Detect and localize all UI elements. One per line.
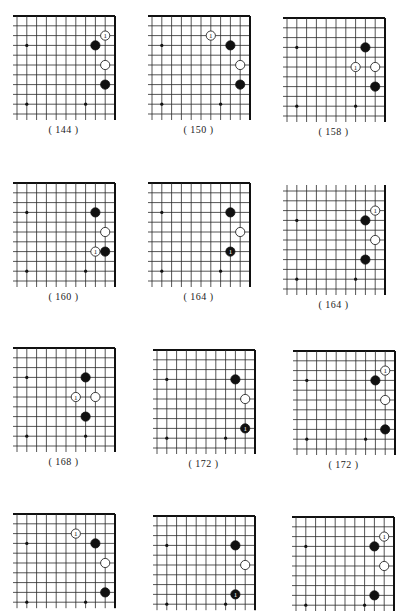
white-stone-move-1: 1 xyxy=(91,247,100,256)
black-stone xyxy=(361,255,370,264)
move-number: 1 xyxy=(94,248,98,256)
go-board-diagram-11: 1 xyxy=(150,516,257,610)
go-board-diagram-2: 1 ( 150 ) xyxy=(145,16,252,120)
star-point xyxy=(304,545,307,548)
go-board-diagram-4: 1 ( 160 ) xyxy=(10,183,117,287)
white-stone xyxy=(236,227,245,236)
star-point xyxy=(165,437,168,440)
white-stone xyxy=(101,60,110,69)
star-point xyxy=(25,211,28,214)
go-board: 1 xyxy=(10,16,117,120)
go-board-diagram-6: 1 ( 164 ) xyxy=(280,185,387,295)
go-board-diagram-3: 1 ( 158 ) xyxy=(280,18,387,122)
star-point xyxy=(25,435,28,438)
black-stone xyxy=(101,588,110,597)
star-point xyxy=(25,542,28,545)
star-point xyxy=(25,44,28,47)
black-stone xyxy=(101,80,110,89)
black-stone xyxy=(231,375,240,384)
white-stone xyxy=(241,560,250,569)
diagram-caption: ( 168 ) xyxy=(10,456,117,467)
go-board-diagram-5: 1 ( 164 ) xyxy=(145,183,252,287)
black-stone-move-1: 1 xyxy=(241,424,250,433)
star-point xyxy=(219,103,222,106)
white-stone-move-1: 1 xyxy=(351,62,360,71)
star-point xyxy=(84,103,87,106)
black-stone xyxy=(226,41,235,50)
black-stone xyxy=(81,412,90,421)
star-point xyxy=(165,378,168,381)
black-stone xyxy=(91,539,100,548)
diagram-caption: ( 172 ) xyxy=(290,459,397,470)
white-stone-move-1: 1 xyxy=(380,532,389,541)
star-point xyxy=(304,604,307,607)
go-board: 1 xyxy=(10,348,117,452)
go-board-diagram-10: 1 xyxy=(10,514,117,608)
star-point xyxy=(160,103,163,106)
move-number: 1 xyxy=(234,591,238,599)
move-number: 1 xyxy=(74,530,78,538)
black-stone xyxy=(231,541,240,550)
star-point xyxy=(219,270,222,273)
black-stone xyxy=(236,80,245,89)
white-stone xyxy=(371,235,380,244)
star-point xyxy=(84,601,87,604)
star-point xyxy=(295,105,298,108)
black-stone xyxy=(371,376,380,385)
star-point xyxy=(305,438,308,441)
diagram-caption: ( 150 ) xyxy=(145,124,252,135)
black-stone xyxy=(361,216,370,225)
go-board: 1 xyxy=(10,183,117,287)
star-point xyxy=(25,270,28,273)
move-number: 1 xyxy=(229,248,233,256)
star-point xyxy=(25,103,28,106)
go-board-diagram-9: 1 ( 172 ) xyxy=(290,351,397,455)
white-stone xyxy=(241,394,250,403)
star-point xyxy=(165,603,168,606)
go-board: 1 xyxy=(280,18,387,122)
move-number: 1 xyxy=(354,64,358,72)
black-stone xyxy=(101,247,110,256)
diagram-caption: ( 172 ) xyxy=(150,458,257,469)
white-stone-move-1: 1 xyxy=(71,392,80,401)
black-stone xyxy=(226,208,235,217)
go-board-diagram-1: 1 ( 144 ) xyxy=(10,16,117,120)
go-board-diagram-7: 1 ( 168 ) xyxy=(10,348,117,452)
star-point xyxy=(25,376,28,379)
star-point xyxy=(305,379,308,382)
black-stone-move-1: 1 xyxy=(226,247,235,256)
black-stone xyxy=(371,82,380,91)
white-stone xyxy=(101,558,110,567)
diagram-caption: ( 164 ) xyxy=(145,291,252,302)
white-stone-move-1: 1 xyxy=(101,31,110,40)
black-stone xyxy=(370,591,379,600)
white-stone xyxy=(371,62,380,71)
star-point xyxy=(354,278,357,281)
white-stone xyxy=(236,60,245,69)
star-point xyxy=(363,604,366,607)
move-number: 1 xyxy=(373,207,377,215)
diagram-caption: ( 164 ) xyxy=(280,299,387,310)
go-board: 1 xyxy=(290,351,397,455)
star-point xyxy=(224,437,227,440)
diagram-caption: ( 144 ) xyxy=(10,124,117,135)
white-stone-move-1: 1 xyxy=(206,31,215,40)
diagram-caption: ( 158 ) xyxy=(280,126,387,137)
star-point xyxy=(165,544,168,547)
star-point xyxy=(224,603,227,606)
star-point xyxy=(295,278,298,281)
star-point xyxy=(295,46,298,49)
go-board: 1 xyxy=(145,16,252,120)
move-number: 1 xyxy=(209,32,213,40)
go-board: 1 xyxy=(10,514,117,608)
star-point xyxy=(364,438,367,441)
star-point xyxy=(84,270,87,273)
black-stone xyxy=(81,373,90,382)
go-board: 1 xyxy=(280,185,387,295)
go-board-diagram-8: 1 ( 172 ) xyxy=(150,350,257,454)
move-number: 1 xyxy=(74,394,78,402)
white-stone xyxy=(381,395,390,404)
go-board: 1 xyxy=(150,350,257,454)
go-board-diagram-12: 1 xyxy=(289,517,396,611)
white-stone xyxy=(380,561,389,570)
